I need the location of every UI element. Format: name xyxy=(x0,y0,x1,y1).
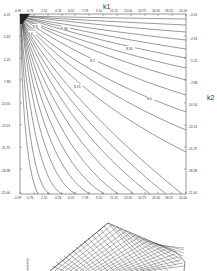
svg-text:-0.99: -0.99 xyxy=(14,9,21,13)
svg-text:-0.99: -0.99 xyxy=(14,196,21,200)
svg-text:0.76: 0.76 xyxy=(27,196,33,200)
svg-text:11.25: 11.25 xyxy=(110,196,118,200)
svg-text:13.00: 13.00 xyxy=(124,9,132,13)
svg-text:8.30: 8.30 xyxy=(126,47,133,51)
svg-text:14.75: 14.75 xyxy=(138,196,146,200)
svg-text:11.25: 11.25 xyxy=(110,9,118,13)
svg-text:0.76: 0.76 xyxy=(27,9,33,13)
svg-text:13.00: 13.00 xyxy=(124,196,132,200)
y-ticks-left: -0.01 -2.63 -5.25 -7.88 -10.50 -13.13 -1… xyxy=(1,13,10,195)
svg-text:-15.75: -15.75 xyxy=(1,146,10,150)
svg-text:-18.38: -18.38 xyxy=(188,169,197,173)
svg-text:-0.01: -0.01 xyxy=(3,13,10,17)
svg-text:8.36: 8.36 xyxy=(61,27,68,31)
svg-text:8.15: 8.15 xyxy=(74,85,81,89)
svg-text:2.51: 2.51 xyxy=(41,196,47,200)
svg-text:6.01: 6.01 xyxy=(68,196,74,200)
x-ticks-bottom: -0.99 0.76 2.51 4.26 6.01 7.76 9.50 11.2… xyxy=(14,196,187,200)
surface-wireframe xyxy=(50,223,185,271)
svg-text:20.00: 20.00 xyxy=(179,196,187,200)
svg-text:-21.00: -21.00 xyxy=(1,191,10,195)
svg-text:4.26: 4.26 xyxy=(55,9,61,13)
svg-text:-13.13: -13.13 xyxy=(188,125,197,129)
svg-text:16.50: 16.50 xyxy=(152,196,160,200)
svg-text:-5.25: -5.25 xyxy=(3,58,10,62)
svg-text:2.51: 2.51 xyxy=(41,9,47,13)
svg-text:-18.38: -18.38 xyxy=(1,169,10,173)
svg-text:8.4: 8.4 xyxy=(28,32,33,36)
svg-text:4.26: 4.26 xyxy=(55,196,61,200)
svg-text:9.50: 9.50 xyxy=(96,196,102,200)
svg-text:14.75: 14.75 xyxy=(138,9,146,13)
x-ticks-top: -0.99 0.76 2.51 4.26 6.01 7.76 9.50 11.2… xyxy=(14,9,187,13)
svg-text:-21.00: -21.00 xyxy=(188,191,197,195)
contour-lines xyxy=(21,16,186,194)
svg-text:-10.50: -10.50 xyxy=(1,102,10,106)
svg-text:-10.50: -10.50 xyxy=(188,103,197,107)
svg-text:20.00: 20.00 xyxy=(179,9,187,13)
svg-text:18.25: 18.25 xyxy=(165,196,173,200)
svg-text:-7.88: -7.88 xyxy=(190,81,197,85)
surface-axis xyxy=(26,258,28,271)
svg-text:9.50: 9.50 xyxy=(96,9,102,13)
y-axis-label: k2 xyxy=(207,94,215,101)
contour-labels: 8.8 8.4 8.36 8.30 8.2 8.15 8.6 xyxy=(28,24,155,101)
svg-text:-5.25: -5.25 xyxy=(190,59,197,63)
svg-text:8.2: 8.2 xyxy=(90,59,95,63)
svg-text:-13.13: -13.13 xyxy=(1,124,10,128)
svg-text:16.50: 16.50 xyxy=(152,9,160,13)
svg-text:-2.63: -2.63 xyxy=(3,35,10,39)
figure: k1 k2 -0.99 0.76 2.51 4.26 6.01 7.76 9.5… xyxy=(0,0,217,271)
svg-text:-0.01: -0.01 xyxy=(190,13,197,17)
svg-text:18.25: 18.25 xyxy=(165,9,173,13)
svg-text:6.01: 6.01 xyxy=(68,9,74,13)
y-ticks-right: -0.01 -2.63 -5.25 -7.88 -10.50 -13.13 -1… xyxy=(188,13,197,195)
svg-text:8.6: 8.6 xyxy=(147,97,152,101)
svg-text:-2.63: -2.63 xyxy=(190,37,197,41)
svg-text:7.76: 7.76 xyxy=(82,196,88,200)
svg-text:8.8: 8.8 xyxy=(33,25,38,29)
svg-text:-15.75: -15.75 xyxy=(188,147,197,151)
svg-text:7.76: 7.76 xyxy=(82,9,88,13)
svg-text:-7.88: -7.88 xyxy=(3,80,10,84)
